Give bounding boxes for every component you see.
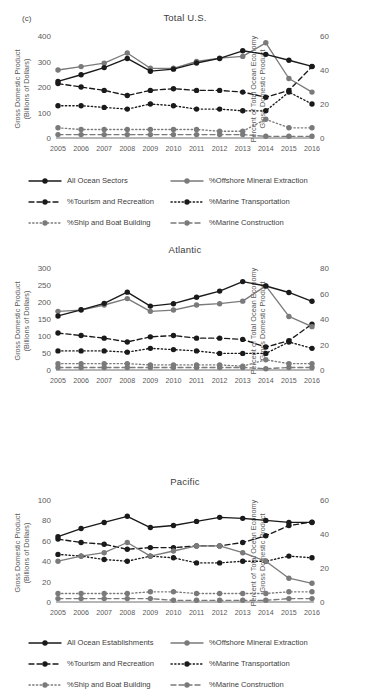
y-tick-left: 60 [42, 537, 51, 546]
y-tick-right: 20 [320, 564, 329, 573]
marine-transportation-line [58, 342, 312, 353]
x-tick-label: 2011 [189, 609, 204, 617]
legend-swatch-marine_transportation [170, 193, 204, 211]
data-point-marker [309, 361, 314, 366]
data-point-marker [171, 347, 176, 352]
plot-area-pacific: 0204060801000204060200520062007200820092… [0, 488, 370, 628]
data-point-marker [286, 361, 291, 366]
data-point-marker [148, 309, 153, 314]
y-tick-left: 40 [42, 557, 51, 566]
data-point-marker [148, 88, 153, 93]
y-tick-left: 250 [38, 281, 52, 290]
data-point-marker [194, 60, 199, 65]
data-point-marker [309, 125, 314, 130]
data-point-marker [263, 518, 268, 523]
data-point-marker [148, 303, 153, 308]
data-point-marker [101, 105, 106, 110]
chart-title-atlantic: Atlantic [0, 244, 370, 255]
data-point-marker [171, 589, 176, 594]
data-point-marker [217, 351, 222, 356]
x-tick-label: 2013 [235, 609, 251, 617]
y-tick-right: 60 [320, 496, 329, 505]
data-point-marker [78, 526, 83, 531]
data-point-marker [194, 348, 199, 353]
legend-label: %Marine Construction [209, 218, 284, 227]
ship-boat-line [58, 592, 312, 594]
data-point-marker [263, 533, 268, 538]
data-point-marker [171, 523, 176, 528]
y-axis-label-left: Gross Domestic Product (Billions of Doll… [14, 376, 36, 494]
x-tick-label: 2005 [50, 609, 66, 617]
data-point-marker [309, 581, 314, 586]
data-point-marker [286, 576, 291, 581]
data-point-marker [148, 553, 153, 558]
x-tick-label: 2007 [96, 609, 112, 617]
data-point-marker [148, 596, 153, 601]
data-point-marker [309, 589, 314, 594]
data-point-marker [55, 79, 60, 84]
data-point-marker [101, 557, 106, 562]
legend-label: %Offshore Mineral Extraction [209, 176, 308, 185]
legend-label: %Tourism and Recreation [67, 197, 154, 206]
data-point-marker [171, 103, 176, 108]
x-tick-label: 2006 [73, 377, 89, 385]
data-point-marker [55, 313, 60, 318]
plot-area-total-us: 0100200300400020406020052006200720082009… [0, 24, 370, 164]
data-point-marker [263, 134, 268, 139]
ship-boat-line [58, 360, 312, 366]
data-point-marker [240, 598, 245, 603]
data-point-marker [125, 361, 130, 366]
data-point-marker [55, 591, 60, 596]
marine-construction-line [58, 599, 312, 601]
x-tick-label: 2010 [166, 377, 182, 385]
data-point-marker [125, 56, 130, 61]
data-point-marker [217, 301, 222, 306]
data-point-marker [171, 86, 176, 91]
data-point-marker [78, 361, 83, 366]
data-point-marker [55, 361, 60, 366]
data-point-marker [286, 314, 291, 319]
data-point-marker [78, 127, 83, 132]
x-tick-label: 2005 [50, 145, 66, 153]
y-tick-right: 60 [320, 32, 329, 41]
data-point-marker [240, 108, 245, 113]
data-point-marker [55, 132, 60, 137]
data-point-marker [171, 555, 176, 560]
data-point-marker [217, 129, 222, 134]
data-point-marker [125, 93, 130, 98]
data-point-marker [263, 559, 268, 564]
data-point-marker [148, 68, 153, 73]
chart-panel-total-us: (c) Total U.S. Gross Domestic Product (B… [0, 0, 370, 232]
plot-svg-pacific: 0204060801000204060200520062007200820092… [0, 488, 370, 628]
legend-label: All Ocean Sectors [67, 176, 128, 185]
legend-swatch-offshore_mineral [170, 172, 204, 190]
y-tick-left: 200 [38, 298, 52, 307]
chart-title-total-us: Total U.S. [0, 12, 370, 23]
y-tick-left: 50 [42, 349, 51, 358]
data-point-marker [148, 334, 153, 339]
y-tick-right: 20 [320, 100, 329, 109]
data-point-marker [101, 127, 106, 132]
x-tick-label: 2011 [189, 377, 204, 385]
x-tick-label: 2010 [166, 609, 182, 617]
x-tick-label: 2013 [235, 377, 251, 385]
x-tick-label: 2008 [119, 377, 135, 385]
y-tick-left: 0 [47, 366, 52, 375]
data-point-marker [217, 88, 222, 93]
data-point-marker [194, 106, 199, 111]
plot-svg-total-us: 0100200300400020406020052006200720082009… [0, 24, 370, 164]
data-point-marker [263, 598, 268, 603]
x-tick-label: 2011 [189, 145, 204, 153]
data-point-marker [101, 65, 106, 70]
y-tick-left: 150 [38, 315, 52, 324]
data-point-marker [240, 337, 245, 342]
data-point-marker [240, 89, 245, 94]
data-point-marker [194, 591, 199, 596]
data-point-marker [240, 550, 245, 555]
x-tick-label: 2012 [212, 377, 228, 385]
data-point-marker [78, 307, 83, 312]
data-point-marker [125, 591, 130, 596]
legend-item: %Offshore Mineral Extraction [170, 170, 346, 191]
data-point-marker [240, 516, 245, 521]
data-point-marker [55, 348, 60, 353]
